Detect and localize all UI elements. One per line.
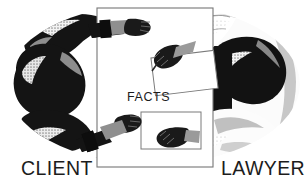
facts-label: FACTS [127,91,170,104]
client-label: CLIENT [21,159,93,179]
illustration-canvas: CLIENT LAWYER FACTS [0,0,307,184]
lawyer-label: LAWYER [221,159,305,179]
